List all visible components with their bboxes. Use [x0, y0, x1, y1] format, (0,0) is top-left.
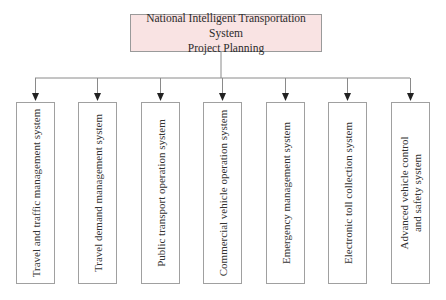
root-label: National Intelligent Transportation Syst… — [131, 11, 321, 56]
diagram-canvas: National Intelligent Transportation Syst… — [0, 0, 446, 300]
node-emergency-management: Emergency management system — [266, 102, 305, 284]
arrowhead-icon — [32, 93, 39, 101]
arrowhead-icon — [219, 93, 226, 101]
arrowhead-icon — [157, 93, 164, 101]
node-commercial-vehicle-operation: Commercial vehicle operation system — [203, 102, 242, 284]
node-travel-demand-management: Travel demand management system — [78, 102, 117, 284]
node-label: Advanced vehicle control and safety syst… — [398, 105, 424, 281]
arrowhead-icon — [94, 93, 101, 101]
node-label: Emergency management system — [279, 105, 292, 281]
node-label: Electronic toll collection system — [341, 105, 354, 281]
arrowhead-icon — [344, 93, 351, 101]
node-advanced-vehicle-control-safety: Advanced vehicle control and safety syst… — [391, 102, 430, 284]
node-travel-traffic-management: Travel and traffic management system — [16, 102, 55, 284]
node-electronic-toll-collection: Electronic toll collection system — [328, 102, 367, 284]
root-node: National Intelligent Transportation Syst… — [130, 14, 322, 52]
arrow-group — [32, 78, 414, 101]
arrowhead-icon — [407, 93, 414, 101]
node-public-transport-operation: Public transport operation system — [141, 102, 180, 284]
node-label: Travel and traffic management system — [29, 105, 42, 281]
node-label: Travel demand management system — [91, 105, 104, 281]
node-label: Commercial vehicle operation system — [216, 105, 229, 281]
node-label: Public transport operation system — [154, 105, 167, 281]
arrowhead-icon — [282, 93, 289, 101]
